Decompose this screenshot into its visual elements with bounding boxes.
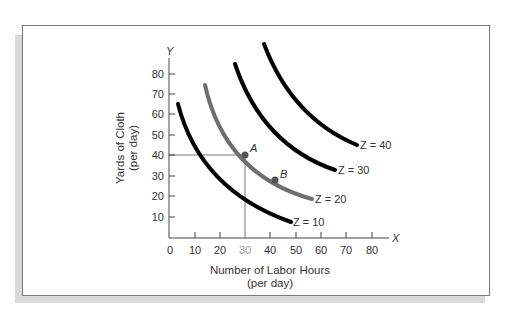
svg-text:30: 30: [152, 170, 164, 182]
svg-text:20: 20: [214, 244, 226, 256]
svg-text:50: 50: [290, 244, 302, 256]
svg-text:40: 40: [264, 244, 276, 256]
y-axis-title: Yards of Cloth: [114, 112, 126, 184]
svg-text:10: 10: [189, 244, 201, 256]
z10-label: Z = 10: [293, 216, 325, 228]
x-axis-symbol: X: [391, 232, 400, 244]
z40-label: Z = 40: [360, 139, 392, 151]
svg-text:60: 60: [152, 108, 164, 120]
y-tick-labels: 10 20 30 40 50 60 70 80: [152, 68, 164, 223]
svg-text:40: 40: [152, 149, 164, 161]
svg-text:60: 60: [315, 244, 327, 256]
z20-label: Z = 20: [315, 193, 347, 205]
point-b-label: B: [280, 168, 287, 180]
x-axis-title: Number of Labor Hours: [210, 264, 330, 276]
svg-text:10: 10: [152, 211, 164, 223]
svg-text:70: 70: [340, 244, 352, 256]
x-axis-subtitle: (per day): [247, 277, 293, 289]
svg-text:20: 20: [152, 190, 164, 202]
y-axis-subtitle: (per day): [127, 125, 139, 171]
x-ticks: [195, 232, 372, 238]
point-a-label: A: [249, 142, 257, 154]
x-tick-labels: 0 10 20 30 40 50 60 70 80: [167, 244, 378, 256]
svg-text:0: 0: [167, 244, 173, 256]
isoquant-z30: [235, 64, 335, 170]
isoquant-chart: 10 20 30 40 50 60 70 80 0 10 20 30 40 50…: [0, 0, 507, 321]
isoquant-z40: [264, 44, 357, 145]
y-axis-symbol: Y: [166, 45, 174, 57]
isoquant-z10: [178, 104, 291, 222]
svg-text:80: 80: [366, 244, 378, 256]
z30-label: Z = 30: [338, 164, 370, 176]
point-b-marker: [272, 177, 279, 184]
svg-text:70: 70: [152, 88, 164, 100]
svg-text:30: 30: [239, 244, 251, 256]
svg-text:50: 50: [152, 129, 164, 141]
y-ticks: [169, 74, 175, 217]
point-a-marker: [242, 152, 249, 159]
svg-text:80: 80: [152, 68, 164, 80]
